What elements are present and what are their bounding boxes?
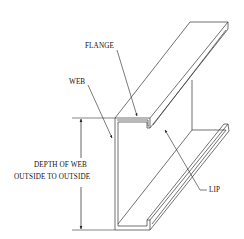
flange-leader: [117, 50, 137, 116]
top-flange: [115, 22, 228, 128]
flange-label: FLANGE: [85, 43, 114, 50]
back-web-edge: [192, 80, 226, 130]
cross-section: [115, 118, 150, 230]
depth-label-line2: OUTSIDE TO OUTSIDE: [14, 174, 90, 181]
bottom-flange: [118, 124, 229, 230]
web-label: WEB: [69, 79, 85, 86]
c-channel-diagram: [0, 0, 244, 239]
lip-label: LIP: [209, 187, 220, 194]
web-leader: [88, 85, 112, 138]
depth-label-line1: DEPTH OF WEB: [34, 162, 87, 169]
